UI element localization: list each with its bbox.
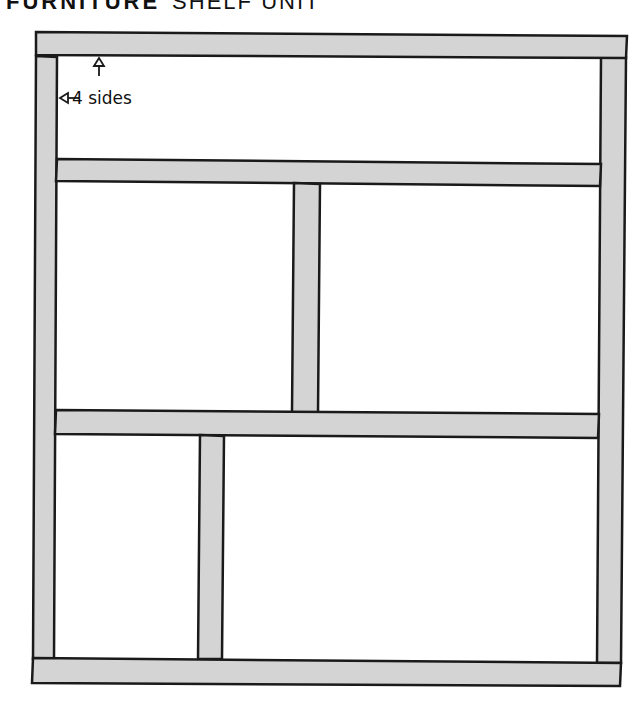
- up-arrow-icon: [94, 58, 104, 76]
- shelf-2: [55, 410, 599, 438]
- right-side-board: [597, 57, 626, 663]
- bottom-board: [32, 658, 621, 686]
- divider-upper: [292, 183, 320, 413]
- divider-lower: [198, 435, 224, 659]
- left-side-board: [33, 56, 57, 659]
- shelf-1: [56, 159, 601, 186]
- top-board: [36, 32, 627, 58]
- four-sides-label: 4 sides: [72, 88, 132, 108]
